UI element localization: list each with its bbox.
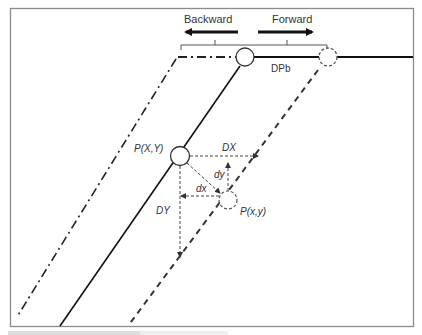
caption-text xyxy=(8,331,228,335)
diagram-canvas: Backward Forward DPb P(X,Y) P(x,y) DX dy… xyxy=(0,0,422,335)
forward-label: Forward xyxy=(272,13,312,25)
backward-bracket xyxy=(181,40,245,50)
dx-label: dx xyxy=(196,183,208,194)
figure-caption-cut xyxy=(8,331,228,335)
backward-label: Backward xyxy=(184,13,232,25)
dash-dot-line-diagonal xyxy=(17,59,176,317)
point-P-xy xyxy=(219,191,237,209)
p-XY-label: P(X,Y) xyxy=(134,143,163,154)
dpb-label: DPb xyxy=(271,63,291,74)
p-xy-label: P(x,y) xyxy=(240,206,266,217)
point-P-XY xyxy=(171,147,190,166)
point-circle-original xyxy=(236,48,254,66)
forward-bracket xyxy=(245,40,327,50)
dy-label: dy xyxy=(214,169,226,180)
DY-label: DY xyxy=(156,205,171,216)
DX-label: DX xyxy=(222,142,236,153)
point-circle-forward xyxy=(319,48,337,66)
